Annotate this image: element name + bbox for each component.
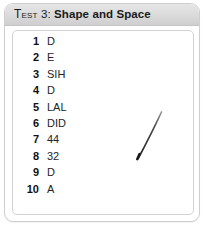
answer-number: 1 — [13, 33, 39, 49]
answer-list: 1D 2E 3SIH 4D 5LAL 6DID 744 — [13, 33, 193, 197]
screenshot-root: Test 3: Shape and Space 1D 2E 3SIH 4D 5L… — [0, 0, 205, 229]
answer-number: 10 — [13, 181, 39, 197]
list-item: 9D — [13, 164, 193, 180]
answer-value: A — [47, 181, 54, 197]
answer-number: 7 — [13, 131, 39, 147]
answer-number: 2 — [13, 49, 39, 65]
answer-value: 32 — [47, 148, 59, 164]
answers-panel: 1D 2E 3SIH 4D 5LAL 6DID 744 — [12, 30, 194, 215]
answer-value: LAL — [47, 99, 67, 115]
answer-number: 8 — [13, 148, 39, 164]
list-item: 3SIH — [13, 66, 193, 82]
page-title-prefix: Test — [14, 7, 38, 21]
list-item: 832 — [13, 148, 193, 164]
answer-value: D — [47, 164, 55, 180]
answer-value: E — [47, 49, 54, 65]
answer-number: 5 — [13, 99, 39, 115]
page-title-number: 3: — [38, 8, 54, 20]
list-item: 10A — [13, 181, 193, 197]
answer-number: 9 — [13, 164, 39, 180]
list-item: 4D — [13, 82, 193, 98]
answer-number: 3 — [13, 66, 39, 82]
page-title-subject: Shape and Space — [54, 8, 151, 20]
answer-value: DID — [47, 115, 66, 131]
answer-number: 4 — [13, 82, 39, 98]
answer-value: D — [47, 33, 55, 49]
list-item: 1D — [13, 33, 193, 49]
list-item: 744 — [13, 131, 193, 147]
answer-number: 6 — [13, 115, 39, 131]
test-answer-card: Test 3: Shape and Space 1D 2E 3SIH 4D 5L… — [4, 3, 200, 222]
card-header: Test 3: Shape and Space — [5, 4, 199, 26]
answer-value: SIH — [47, 66, 65, 82]
list-item: 6DID — [13, 115, 193, 131]
list-item: 2E — [13, 49, 193, 65]
answer-value: 44 — [47, 131, 59, 147]
list-item: 5LAL — [13, 99, 193, 115]
answer-value: D — [47, 82, 55, 98]
page-title: Test 3: Shape and Space — [14, 7, 151, 21]
